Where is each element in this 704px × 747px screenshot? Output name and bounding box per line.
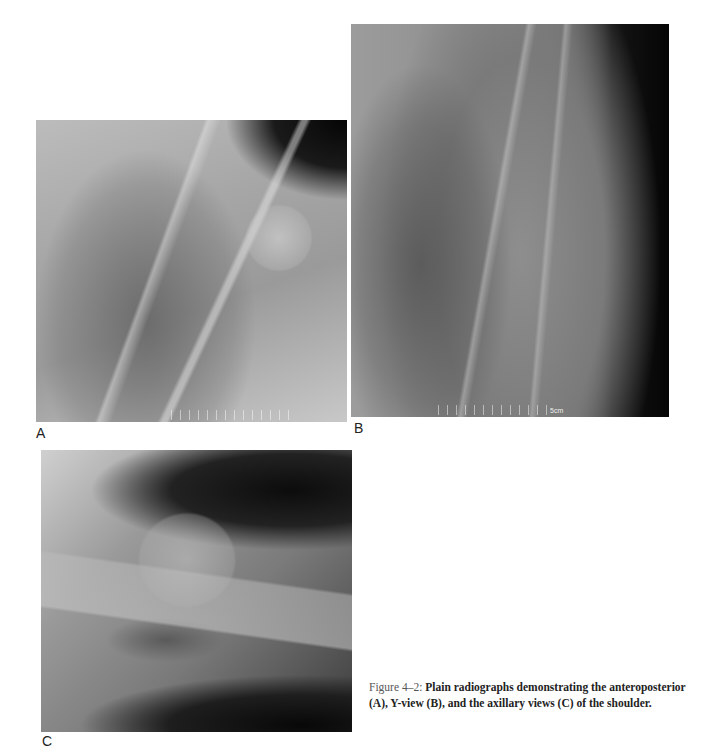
scale-label: 5cm bbox=[550, 407, 563, 414]
radiograph-y-view: 5cm bbox=[351, 24, 669, 417]
figure-number: Figure 4–2: bbox=[369, 681, 422, 693]
caption-text-3: , and the axillary views bbox=[442, 697, 558, 709]
scale-ruler bbox=[438, 405, 548, 415]
radiograph-axillary-view bbox=[41, 450, 352, 732]
panel-label-a: A bbox=[36, 425, 45, 441]
radiograph-ap-view bbox=[36, 120, 347, 422]
caption-ref-b: (B) bbox=[427, 697, 442, 709]
panel-label-c: C bbox=[42, 733, 52, 747]
panel-label-b: B bbox=[354, 420, 363, 436]
caption-ref-c: (C) bbox=[558, 697, 574, 709]
caption-ref-a: (A) bbox=[369, 697, 385, 709]
scale-ruler bbox=[171, 410, 291, 420]
caption-text-4: of the shoulder. bbox=[574, 697, 652, 709]
figure-caption: Figure 4–2: Plain radiographs demonstrat… bbox=[369, 679, 689, 711]
caption-text-1: Plain radiographs demonstrating the ante… bbox=[425, 681, 685, 693]
caption-text-2: , Y-view bbox=[385, 697, 427, 709]
